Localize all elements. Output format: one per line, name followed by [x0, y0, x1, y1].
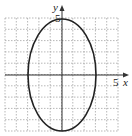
x-axis-label: x	[122, 76, 128, 88]
ellipse-graph: y 5 5 x	[0, 0, 132, 136]
y-tick-label-5: 5	[55, 12, 61, 24]
x-tick-label-5: 5	[113, 76, 119, 88]
y-axis-arrow-icon	[60, 5, 65, 11]
